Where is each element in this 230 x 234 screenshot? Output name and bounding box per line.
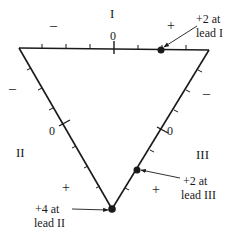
- lead-II-point: [108, 205, 116, 213]
- lead-III-neg-sign: –: [202, 86, 211, 101]
- lead-I-zero-label: 0: [110, 29, 116, 43]
- lead-II-arrow: [72, 209, 108, 210]
- lead-I-neg-sign: –: [49, 18, 58, 33]
- lead-II-zero-label: 0: [49, 124, 55, 138]
- lead-I-point: [158, 47, 165, 54]
- lead-II-neg-sign: –: [8, 81, 17, 96]
- lead-II-annotation-line1: +4 at: [35, 202, 60, 216]
- lead-II-label: II: [16, 145, 25, 160]
- lead-III-annotation-line1: +2 at: [183, 174, 208, 188]
- lead-III-point: [134, 167, 141, 174]
- lead-I-label: I: [110, 6, 114, 21]
- triangle: [19, 48, 209, 209]
- lead-I-annotation-line1: +2 at: [196, 12, 221, 26]
- lead-III-arrow: [141, 170, 180, 178]
- lead-II-pos-sign: +: [62, 180, 70, 195]
- lead-I-pos-sign: +: [167, 18, 175, 33]
- lead-III-label: III: [196, 147, 209, 162]
- lead-III-annotation-line2: lead III: [181, 188, 216, 202]
- lead-III-pos-sign: +: [152, 182, 160, 197]
- einthoven-triangle-diagram: I II III 0 0 0 – + – + – + +2 at lead I …: [0, 0, 230, 234]
- lead-I-annotation-line2: lead I: [196, 26, 223, 40]
- lead-II-annotation-line2: lead II: [34, 216, 65, 230]
- lead-III-zero-label: 0: [167, 124, 173, 138]
